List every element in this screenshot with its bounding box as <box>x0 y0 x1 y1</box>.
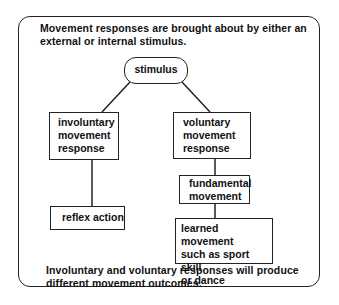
footer-line-2: different movement outcomes. <box>46 277 299 290</box>
node-involuntary-response: involuntary movement response <box>49 112 119 160</box>
node-line: response <box>183 142 250 155</box>
footer-text: Involuntary and voluntary responses will… <box>46 264 299 290</box>
node-line: movement <box>183 129 250 142</box>
node-voluntary-response: voluntary movement response <box>173 112 251 159</box>
node-reflex-action: reflex action <box>50 206 125 230</box>
node-line: movement <box>58 129 118 142</box>
node-line: fundamental <box>189 177 249 190</box>
node-learned-movement: learned movement such as sport skill or … <box>175 218 273 264</box>
node-fundamental-movement: fundamental movement <box>179 175 250 204</box>
node-line: reflex action <box>62 211 124 223</box>
node-stimulus-label: stimulus <box>134 63 177 75</box>
footer-line-1: Involuntary and voluntary responses will… <box>46 264 299 277</box>
node-line: response <box>58 142 118 155</box>
node-line: involuntary <box>58 116 118 129</box>
header-line-1: Movement responses are brought about by … <box>40 22 307 35</box>
node-line: learned movement <box>181 222 272 248</box>
node-line: movement <box>189 190 249 203</box>
node-stimulus: stimulus <box>124 57 188 84</box>
header-text: Movement responses are brought about by … <box>40 22 307 48</box>
header-line-2: external or internal stimulus. <box>40 35 307 48</box>
node-line: voluntary <box>183 116 250 129</box>
